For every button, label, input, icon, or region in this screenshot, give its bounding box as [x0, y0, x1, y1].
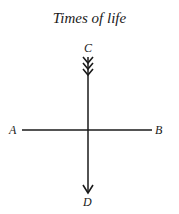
axes-diagram — [0, 0, 179, 214]
